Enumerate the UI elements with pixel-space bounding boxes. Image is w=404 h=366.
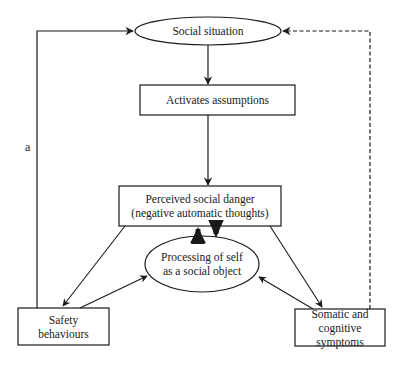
somatic-symptoms-line2: cognitive symptoms (295, 321, 385, 349)
social-situation-label: Social situation (135, 24, 281, 38)
processing-self-line2: as a social object (163, 264, 241, 278)
perceived-danger-line1: Perceived social danger (145, 192, 254, 206)
safety-behaviours-line2: behaviours (38, 327, 88, 341)
somatic-symptoms-line1: Somatic and (311, 307, 368, 321)
social-situation-text: Social situation (172, 24, 243, 38)
activates-assumptions-label: Activates assumptions (140, 85, 295, 115)
processing-self-label: Processing of self as a social object (145, 249, 259, 279)
safety-behaviours-label: Safety behaviours (18, 308, 109, 345)
perceived-danger-label: Perceived social danger (negative automa… (119, 186, 281, 226)
safety-behaviours-line1: Safety (49, 313, 78, 327)
activates-assumptions-text: Activates assumptions (166, 93, 269, 107)
perceived-danger-line2: (negative automatic thoughts) (131, 206, 268, 220)
bold-up-arrowhead (191, 227, 205, 244)
processing-self-line1: Processing of self (161, 250, 243, 264)
edge-label-a: a (25, 140, 30, 155)
somatic-symptoms-label: Somatic and cognitive symptoms (295, 309, 385, 346)
